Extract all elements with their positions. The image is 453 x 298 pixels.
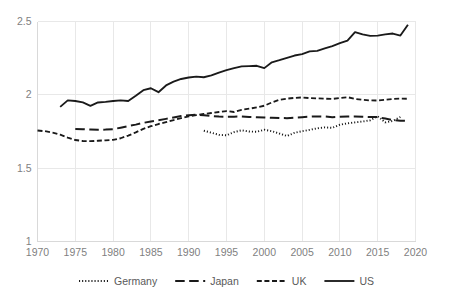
series-lines xyxy=(38,25,408,141)
x-axis-tick-labels: 1970197519801985199019952000200520102015… xyxy=(26,246,428,258)
legend-label-japan: Japan xyxy=(210,275,239,287)
x-tick-label: 1990 xyxy=(177,246,201,258)
legend-label-germany: Germany xyxy=(114,275,158,287)
y-tick-label: 1.5 xyxy=(17,162,32,174)
x-tick-label: 2010 xyxy=(328,246,352,258)
y-tick-label: 2 xyxy=(26,88,32,100)
x-tick-label: 2000 xyxy=(253,246,277,258)
chart-canvas: 11.522.5 1970197519801985199019952000200… xyxy=(0,0,453,298)
y-axis-tick-labels: 11.522.5 xyxy=(17,15,32,247)
line-chart-figure: 11.522.5 1970197519801985199019952000200… xyxy=(0,0,453,298)
gridlines xyxy=(38,22,416,242)
x-tick-label: 1995 xyxy=(215,246,239,258)
legend-label-uk: UK xyxy=(292,275,307,287)
x-tick-label: 1985 xyxy=(139,246,163,258)
x-tick-label: 2015 xyxy=(366,246,390,258)
x-tick-label: 2020 xyxy=(404,246,428,258)
y-tick-label: 2.5 xyxy=(17,15,32,27)
x-tick-label: 2005 xyxy=(290,246,314,258)
x-tick-label: 1980 xyxy=(101,246,125,258)
x-tick-label: 1975 xyxy=(64,246,88,258)
x-tick-label: 1970 xyxy=(26,246,50,258)
legend-label-us: US xyxy=(359,275,374,287)
chart-legend: GermanyJapanUKUS xyxy=(79,275,374,287)
